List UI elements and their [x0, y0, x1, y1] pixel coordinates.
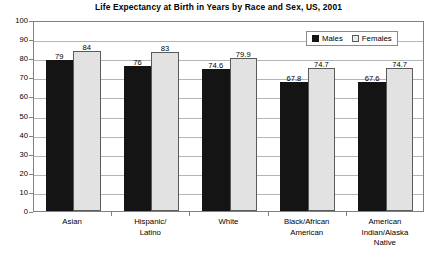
- y-axis-tick-label: 50: [0, 113, 28, 121]
- bar-value-label: 76: [120, 58, 156, 67]
- x-axis-category-line: American: [268, 228, 346, 239]
- plot-area: 7984768374.679.967.874.767.674.7: [33, 21, 424, 212]
- y-axis-tick-label: 80: [0, 55, 28, 63]
- bar-females: [230, 58, 258, 211]
- y-axis-tick-label: 40: [0, 132, 28, 140]
- x-axis-tick-mark: [346, 212, 347, 216]
- x-axis-category-line: Native: [346, 238, 424, 249]
- x-axis-category-line: Hispanic/: [111, 217, 189, 228]
- x-axis-category-label: Black/AfricanAmerican: [268, 217, 346, 238]
- bar-value-label: 79: [42, 52, 78, 61]
- bar-males: [202, 69, 230, 211]
- legend-entry: Females: [352, 34, 392, 43]
- y-axis-tick-label: 60: [0, 93, 28, 101]
- chart-title: Life Expectancy at Birth in Years by Rac…: [0, 2, 437, 12]
- chart-container: Life Expectancy at Birth in Years by Rac…: [0, 0, 437, 271]
- bars-layer: 7984768374.679.967.874.767.674.7: [34, 22, 423, 211]
- legend-entry: Males: [312, 34, 343, 43]
- x-axis-category-label: Hispanic/Latino: [111, 217, 189, 238]
- bar-value-label: 84: [69, 43, 105, 52]
- y-axis-tick-label: 0: [0, 208, 28, 216]
- legend-label: Males: [322, 34, 343, 43]
- bar-value-label: 74.6: [198, 61, 234, 70]
- x-axis-category-label: Asian: [33, 217, 111, 228]
- y-axis: 1009080706050403020100: [0, 21, 28, 212]
- y-axis-tick-label: 70: [0, 74, 28, 82]
- bar-males: [124, 66, 152, 211]
- bar-females: [386, 68, 414, 211]
- bar-males: [46, 60, 74, 211]
- bar-value-label: 67.6: [354, 74, 390, 83]
- legend-swatch-females: [352, 35, 359, 42]
- bar-value-label: 74.7: [382, 60, 418, 69]
- x-axis-tick-mark: [189, 212, 190, 216]
- x-axis-labels: AsianHispanic/LatinoWhiteBlack/AfricanAm…: [33, 217, 424, 257]
- x-axis-category-line: American: [346, 217, 424, 228]
- x-axis-category-label: White: [189, 217, 267, 228]
- y-axis-tick-label: 90: [0, 36, 28, 44]
- bar-females: [151, 52, 179, 211]
- legend-swatch-males: [312, 35, 319, 42]
- bar-value-label: 74.7: [304, 60, 340, 69]
- bar-females: [73, 51, 101, 211]
- legend-label: Females: [362, 34, 392, 43]
- bar-value-label: 67.8: [276, 74, 312, 83]
- x-axis-tick-mark: [111, 212, 112, 216]
- bar-value-label: 83: [147, 44, 183, 53]
- x-axis-category-line: Indian/Alaska: [346, 228, 424, 239]
- x-axis-category-line: Black/African: [268, 217, 346, 228]
- x-axis-category-line: Latino: [111, 228, 189, 239]
- bar-males: [280, 82, 308, 211]
- y-axis-tick-label: 20: [0, 170, 28, 178]
- chart-legend: MalesFemales: [306, 31, 398, 46]
- y-axis-tick-label: 30: [0, 151, 28, 159]
- x-axis-category-line: White: [189, 217, 267, 228]
- bar-value-label: 79.9: [226, 50, 262, 59]
- x-axis-tick-mark: [268, 212, 269, 216]
- bar-females: [308, 68, 336, 211]
- bar-males: [358, 82, 386, 211]
- x-axis-category-label: AmericanIndian/AlaskaNative: [346, 217, 424, 249]
- y-axis-tick-label: 100: [0, 17, 28, 25]
- x-axis-category-line: Asian: [33, 217, 111, 228]
- y-axis-tick-label: 10: [0, 189, 28, 197]
